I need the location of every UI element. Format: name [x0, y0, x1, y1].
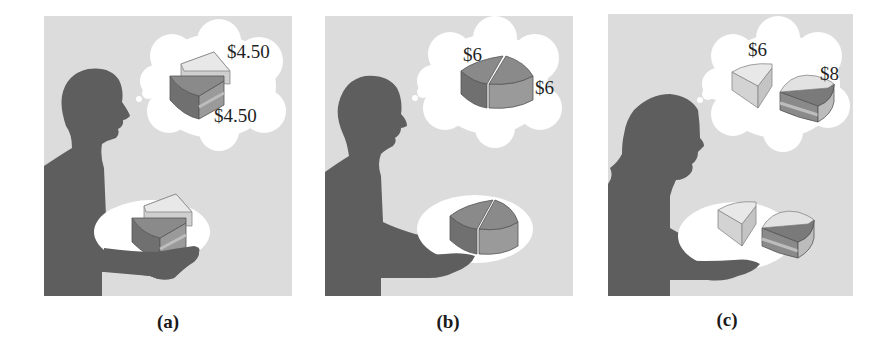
hand	[381, 252, 475, 278]
panel-b-illustration: $6 $6	[325, 16, 573, 296]
price-label-right: $8	[820, 63, 839, 84]
price-label-right: $6	[535, 77, 554, 98]
caption-c: (c)	[697, 309, 757, 331]
price-label-bottom: $4.50	[214, 105, 257, 126]
panel-c: $6 $8	[608, 14, 853, 296]
panel-c-illustration: $6 $8	[608, 14, 853, 296]
price-label-top: $4.50	[227, 41, 270, 62]
price-label-left: $6	[463, 44, 482, 65]
caption-b: (b)	[418, 311, 478, 333]
price-label-left: $6	[748, 39, 767, 60]
hand	[670, 260, 760, 281]
panel-a: $4.50 $4.50	[44, 16, 292, 296]
panel-b: $6 $6	[325, 16, 573, 296]
caption-a: (a)	[138, 311, 198, 333]
panel-a-illustration: $4.50 $4.50	[44, 16, 292, 296]
